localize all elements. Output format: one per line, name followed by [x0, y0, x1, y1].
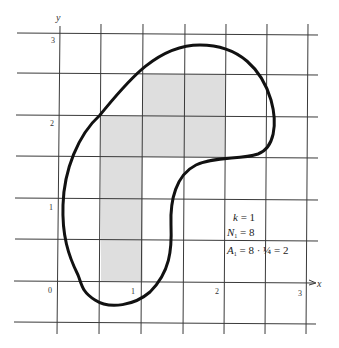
shaded-cell — [101, 116, 143, 157]
shaded-cell — [184, 74, 225, 116]
x-axis — [14, 281, 314, 283]
y-axis — [57, 26, 60, 334]
annotation-k: k = 1 — [233, 211, 255, 223]
a-value: = 8 · ¼ = 2 — [237, 244, 289, 256]
y-tick-2: 2 — [50, 119, 54, 128]
y-tick-1: 1 — [49, 203, 53, 212]
n-value: = 8 — [237, 226, 255, 238]
shaded-cell — [143, 116, 184, 157]
annotation-n: N1 = 8 — [226, 226, 255, 239]
shaded-cell — [101, 240, 143, 281]
shaded-cell — [101, 157, 143, 198]
y-axis-label: y — [55, 12, 61, 23]
shaded-cells — [101, 74, 225, 281]
shaded-cell — [184, 116, 225, 157]
x-tick-0: 0 — [48, 286, 52, 295]
area-approximation-diagram: y x 0 1 2 3 1 2 3 k = 1 N1 = 8 A1 = 8 · … — [0, 0, 339, 348]
shaded-cell — [101, 198, 143, 240]
annotation-a: A1 = 8 · ¼ = 2 — [226, 244, 289, 257]
x-axis-label: x — [316, 278, 322, 289]
shaded-cell — [143, 74, 184, 116]
k-value: = 1 — [238, 211, 255, 223]
y-tick-3: 3 — [51, 36, 55, 45]
x-tick-2: 2 — [215, 287, 219, 296]
x-tick-1: 1 — [131, 287, 135, 296]
x-tick-3: 3 — [298, 289, 302, 298]
grid-vertical — [57, 24, 308, 334]
